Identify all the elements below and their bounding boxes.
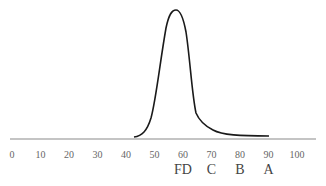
x-tick-label: 40 bbox=[121, 149, 131, 160]
grade-label: FD bbox=[174, 162, 192, 178]
distribution-curve bbox=[134, 10, 269, 137]
grade-label: A bbox=[263, 162, 273, 178]
x-tick-label: 10 bbox=[36, 149, 46, 160]
x-tick-label: 50 bbox=[150, 149, 160, 160]
x-tick-label: 30 bbox=[93, 149, 103, 160]
x-tick-label: 90 bbox=[264, 149, 274, 160]
x-tick-label: 70 bbox=[207, 149, 217, 160]
x-tick-label: 20 bbox=[64, 149, 74, 160]
grade-label: C bbox=[207, 162, 216, 178]
x-tick-label: 0 bbox=[10, 149, 15, 160]
x-tick-label: 100 bbox=[290, 149, 305, 160]
grade-label: B bbox=[235, 162, 244, 178]
distribution-chart bbox=[0, 0, 326, 186]
x-tick-label: 60 bbox=[178, 149, 188, 160]
x-tick-label: 80 bbox=[235, 149, 245, 160]
